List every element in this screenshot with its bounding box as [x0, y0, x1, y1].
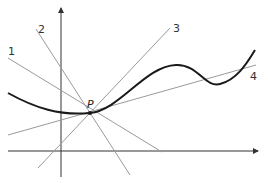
label-line-1: 1	[8, 45, 15, 58]
label-line-2: 2	[38, 23, 45, 36]
curve	[8, 50, 255, 114]
tangent-diagram: 1 2 3 4 P	[0, 0, 268, 183]
label-line-4: 4	[250, 70, 257, 83]
label-point-p: P	[87, 98, 94, 111]
point-p	[88, 111, 92, 115]
label-line-3: 3	[173, 22, 180, 35]
line-3	[38, 28, 170, 168]
line-4-tangent	[8, 65, 256, 135]
